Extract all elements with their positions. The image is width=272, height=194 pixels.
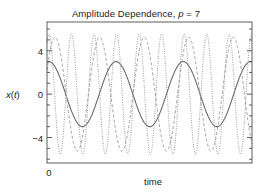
x-axis-tick-labels: 0 — [0, 0, 272, 194]
x-tick-label: 0 — [46, 167, 51, 178]
chart-figure: Amplitude Dependence, p = 7 x(t) time 40… — [0, 0, 272, 194]
